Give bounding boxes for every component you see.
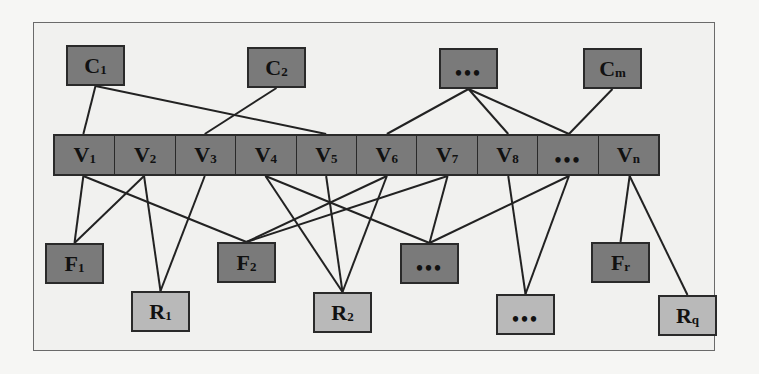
- edge-v7-f2: [247, 176, 448, 242]
- node-label: V: [134, 142, 150, 168]
- node-v1: V1: [55, 136, 115, 174]
- edge-cm-vdots: [569, 89, 613, 134]
- node-label: V: [496, 142, 512, 168]
- node-label: C: [84, 53, 100, 79]
- ellipsis-label: •••: [554, 149, 581, 172]
- node-subscript: r: [624, 259, 630, 275]
- node-subscript: 2: [347, 309, 354, 325]
- edge-cdots-v6: [387, 89, 469, 134]
- edge-cdots-v8: [469, 89, 509, 134]
- node-r1: R1: [131, 291, 190, 332]
- node-label: R: [676, 303, 692, 329]
- node-label: V: [436, 142, 452, 168]
- node-subscript: n: [633, 151, 640, 167]
- node-subscript: 8: [512, 151, 519, 167]
- node-v3: V3: [176, 136, 236, 174]
- node-subscript: 5: [331, 151, 338, 167]
- ellipsis-label: •••: [512, 308, 539, 331]
- node-label: V: [376, 142, 392, 168]
- node-rq: Rq: [658, 295, 717, 336]
- node-c2: C2: [247, 47, 306, 88]
- node-subscript: 2: [150, 151, 157, 167]
- node-subscript: q: [692, 312, 699, 328]
- node-v6: V6: [357, 136, 417, 174]
- node-label: R: [331, 300, 347, 326]
- node-label: R: [149, 299, 165, 325]
- v-layer-row: V1V2V3V4V5V6V7V8•••Vn: [53, 134, 660, 176]
- node-r2: R2: [313, 292, 372, 333]
- edge-v4-r2: [265, 176, 342, 292]
- node-subscript: 1: [78, 260, 85, 276]
- ellipsis-label: •••: [416, 257, 443, 280]
- node-cdots: •••: [439, 48, 498, 89]
- node-label: V: [315, 142, 331, 168]
- node-label: F: [65, 251, 78, 277]
- node-v5: V5: [297, 136, 357, 174]
- node-subscript: 1: [165, 308, 172, 324]
- node-subscript: 2: [250, 259, 257, 275]
- node-label: V: [194, 142, 210, 168]
- node-label: C: [599, 56, 615, 82]
- node-label: F: [237, 250, 250, 276]
- edge-v2-r1: [144, 176, 160, 291]
- node-subscript: m: [615, 65, 626, 81]
- edge-v1-f2: [83, 176, 246, 242]
- node-vdots: •••: [538, 136, 598, 174]
- edge-v1-f1: [75, 176, 84, 243]
- node-c1: C1: [66, 45, 125, 86]
- edge-v7-fdots: [430, 176, 448, 243]
- edge-vn-fr: [621, 176, 630, 242]
- node-vn: Vn: [599, 136, 658, 174]
- node-subscript: 1: [89, 151, 96, 167]
- node-f2: F2: [217, 242, 276, 283]
- node-fdots: •••: [400, 243, 459, 284]
- node-label: V: [74, 142, 90, 168]
- node-v8: V8: [478, 136, 538, 174]
- node-subscript: 4: [271, 151, 278, 167]
- node-v4: V4: [236, 136, 296, 174]
- node-v2: V2: [115, 136, 175, 174]
- node-label: V: [617, 142, 633, 168]
- edge-v3-r1: [161, 176, 205, 291]
- edge-c1-v1: [83, 86, 95, 134]
- node-subscript: 7: [452, 151, 459, 167]
- node-v7: V7: [417, 136, 477, 174]
- edge-c1-v5: [96, 86, 327, 134]
- node-label: C: [265, 55, 281, 81]
- node-f1: F1: [45, 243, 104, 284]
- node-rdots: •••: [496, 294, 555, 335]
- edge-cdots-vdots: [469, 89, 569, 134]
- node-label: F: [611, 250, 624, 276]
- node-subscript: 1: [100, 62, 107, 78]
- node-subscript: 6: [391, 151, 398, 167]
- edge-v8-rdots: [508, 176, 525, 294]
- edge-v5-r2: [326, 176, 342, 292]
- ellipsis-label: •••: [455, 62, 482, 85]
- node-subscript: 3: [210, 151, 217, 167]
- node-label: V: [255, 142, 271, 168]
- node-subscript: 2: [281, 64, 288, 80]
- node-fr: Fr: [591, 242, 650, 283]
- node-cm: Cm: [583, 48, 642, 89]
